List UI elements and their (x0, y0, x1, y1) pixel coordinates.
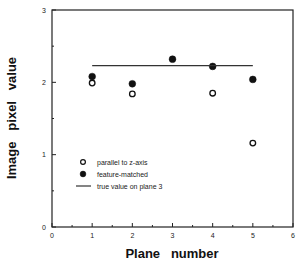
x-tick-label: 2 (130, 232, 134, 239)
legend-label: true value on plane 3 (97, 183, 162, 191)
x-tick-label: 4 (211, 232, 215, 239)
feature-matched-point (169, 56, 176, 63)
y-tick-label: 3 (42, 7, 46, 14)
data-marks (89, 56, 256, 146)
parallel-z-axis-point (130, 91, 136, 97)
legend: parallel to z-axisfeature-matchedtrue va… (76, 159, 162, 191)
ticks: 01234560123 (42, 7, 295, 240)
axes (52, 10, 293, 227)
legend-open-circle-icon (81, 160, 86, 165)
chart: 01234560123 parallel to z-axisfeature-ma… (0, 0, 306, 270)
feature-matched-point (249, 76, 256, 83)
feature-matched-point (209, 63, 216, 70)
x-tick-label: 3 (171, 232, 175, 239)
legend-filled-circle-icon (80, 171, 86, 177)
feature-matched-point (129, 80, 136, 87)
y-tick-label: 1 (42, 151, 46, 158)
y-axis-title: Image pixel value (4, 57, 19, 179)
y-tick-label: 0 (42, 224, 46, 231)
legend-label: parallel to z-axis (97, 159, 148, 167)
feature-matched-point (89, 73, 96, 80)
x-tick-label: 0 (50, 232, 54, 239)
parallel-z-axis-point (250, 140, 256, 146)
parallel-z-axis-point (89, 80, 95, 86)
x-tick-label: 6 (291, 232, 295, 239)
y-tick-label: 2 (42, 79, 46, 86)
plot-frame (52, 10, 293, 227)
x-tick-label: 1 (90, 232, 94, 239)
x-axis-title: Plane number (125, 246, 218, 261)
parallel-z-axis-point (210, 90, 216, 96)
legend-label: feature-matched (97, 171, 148, 178)
x-tick-label: 5 (251, 232, 255, 239)
